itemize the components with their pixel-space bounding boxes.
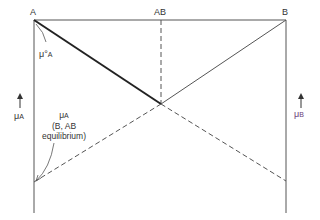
corner-label-b: B	[282, 8, 288, 17]
mu-a-equilibrium-label: μA (B, AB equilibrium)	[36, 110, 92, 141]
corner-label-ab: AB	[154, 8, 166, 17]
mu-a-axis-label: μA	[14, 112, 24, 121]
mu-a-bold-line	[34, 20, 161, 104]
corner-label-a: A	[30, 8, 36, 17]
mu-standard-a-label: μ°A	[39, 50, 52, 59]
up-arrowhead-left-icon	[17, 93, 23, 99]
up-arrowhead-right-icon	[298, 93, 304, 99]
mu-b-axis-label: μB	[294, 110, 304, 119]
right-dashed-extension	[161, 104, 286, 181]
mu-b-line	[161, 20, 286, 104]
